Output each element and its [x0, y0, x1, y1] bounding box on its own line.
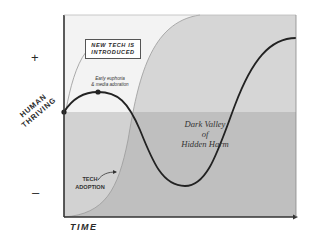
valley-line3: Hidden Harm — [175, 139, 235, 149]
adoption-line2: ADOPTION — [70, 183, 110, 191]
adoption-annotation: TECH ADOPTION — [70, 175, 110, 191]
new-tech-callout: NEW TECH IS INTRODUCED — [85, 39, 141, 59]
tech-adoption-diagram: + – HUMAN THRIVING TIME NEW TECH IS INTR… — [0, 0, 310, 240]
x-axis-label: TIME — [70, 222, 98, 232]
positive-marker: + — [31, 50, 39, 65]
negative-marker: – — [32, 185, 39, 200]
euphoria-line2: & media adoration — [80, 82, 140, 88]
valley-line2: of — [175, 129, 235, 139]
diagram-canvas — [0, 0, 310, 240]
euphoria-annotation: Early euphoria & media adoration — [80, 76, 140, 88]
valley-annotation: Dark Valley of Hidden Harm — [175, 119, 235, 149]
valley-line1: Dark Valley — [175, 119, 235, 129]
adoption-line1: TECH — [70, 175, 110, 183]
new-tech-line2: INTRODUCED — [86, 49, 140, 56]
euphoria-peak-point — [95, 89, 100, 94]
new-tech-line1: NEW TECH IS — [86, 42, 140, 49]
